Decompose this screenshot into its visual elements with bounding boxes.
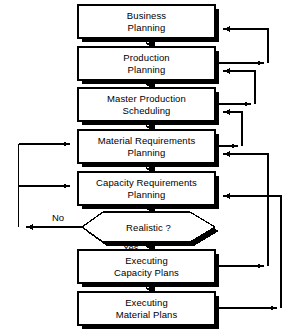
loop-executing-material-to-mrp (223, 196, 281, 308)
edge-label-yes: Yes (123, 242, 139, 253)
node-material-requirements-planning (78, 130, 215, 163)
node-business-planning (78, 5, 215, 38)
loop-production-to-business (223, 29, 268, 63)
node-production-planning (78, 47, 215, 80)
no-feedback-loop (19, 144, 83, 227)
node-executing-capacity-plans (78, 250, 215, 283)
edge-label-no: No (52, 212, 64, 223)
node-executing-material-plans (78, 292, 215, 325)
node-master-production-scheduling (78, 88, 215, 121)
loop-mrp-to-mps (223, 112, 242, 146)
loop-mps-to-production (223, 71, 255, 104)
node-capacity-requirements-planning (78, 172, 215, 205)
flowchart-canvas (0, 0, 294, 332)
flowchart-diagram: Business Planning Production Planning Ma… (0, 0, 294, 332)
loop-executing-capacity-to-crp (223, 154, 268, 266)
node-realistic-decision (82, 212, 215, 242)
